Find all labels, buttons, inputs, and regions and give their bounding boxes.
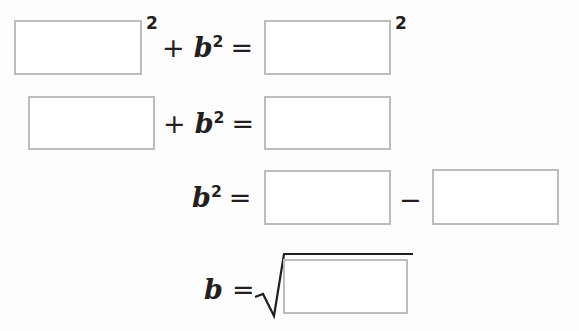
equals-sign: = — [229, 182, 252, 213]
line2-operator-group: +b2= — [163, 110, 254, 137]
exponent-2: 2 — [214, 108, 225, 127]
plus-sign: + — [162, 32, 185, 63]
equals-sign: = — [232, 274, 255, 305]
line3-blank-left[interactable] — [264, 170, 391, 225]
line1-blank-left[interactable] — [14, 20, 142, 75]
line1-blank-right[interactable] — [264, 20, 391, 75]
equals-sign: = — [230, 32, 253, 63]
line1-left-exponent: 2 — [146, 15, 158, 32]
line4-operator-group: b= — [204, 276, 255, 303]
line4-blank-radicand[interactable] — [283, 259, 408, 314]
exponent-2: 2 — [213, 32, 224, 51]
line1-right-exponent: 2 — [395, 15, 407, 32]
plus-sign: + — [163, 108, 186, 139]
minus-sign: − — [399, 184, 422, 215]
exponent-2: 2 — [211, 182, 222, 201]
variable-b: b — [204, 274, 223, 305]
line3-minus-group: − — [399, 186, 422, 213]
line2-blank-left[interactable] — [28, 96, 155, 150]
variable-b: b — [192, 182, 211, 213]
variable-b: b — [195, 108, 214, 139]
math-worksheet: 2 +b2= 2 +b2= b2= − b= — [0, 0, 579, 331]
equals-sign: = — [231, 108, 254, 139]
line3-blank-right[interactable] — [432, 169, 559, 225]
variable-b: b — [194, 32, 213, 63]
line2-blank-right[interactable] — [264, 96, 391, 150]
line3-operator-group: b2= — [192, 184, 251, 211]
line1-operator-group: +b2= — [162, 34, 253, 61]
